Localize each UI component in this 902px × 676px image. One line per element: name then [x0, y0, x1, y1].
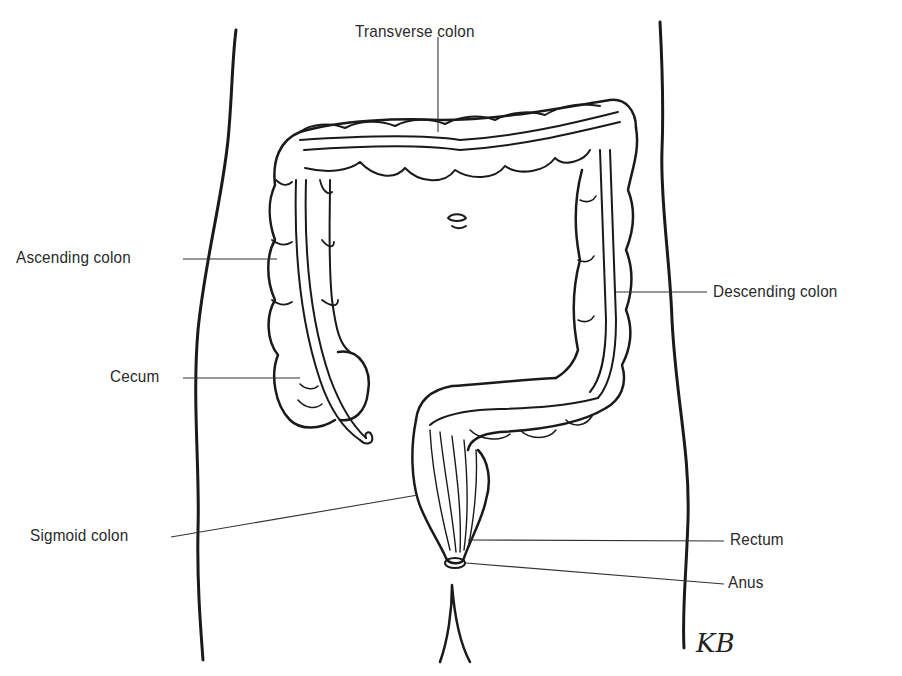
label-descending-colon: Descending colon — [713, 282, 838, 302]
label-transverse-colon: Transverse colon — [355, 22, 475, 42]
artist-signature: KB — [696, 628, 735, 658]
label-anus: Anus — [728, 573, 764, 593]
label-ascending-colon: Ascending colon — [16, 248, 131, 268]
torso-left-outline — [196, 30, 236, 660]
leader-sigmoid — [171, 495, 418, 537]
sigmoid-body — [412, 420, 488, 563]
label-sigmoid-colon: Sigmoid colon — [30, 526, 128, 546]
torso-right-outline — [660, 22, 688, 648]
leader-rectum — [468, 540, 724, 541]
label-cecum: Cecum — [110, 367, 159, 387]
colon-illustration — [0, 0, 902, 676]
navel — [448, 214, 466, 228]
label-rectum: Rectum — [730, 530, 784, 550]
leg-split — [440, 585, 470, 662]
